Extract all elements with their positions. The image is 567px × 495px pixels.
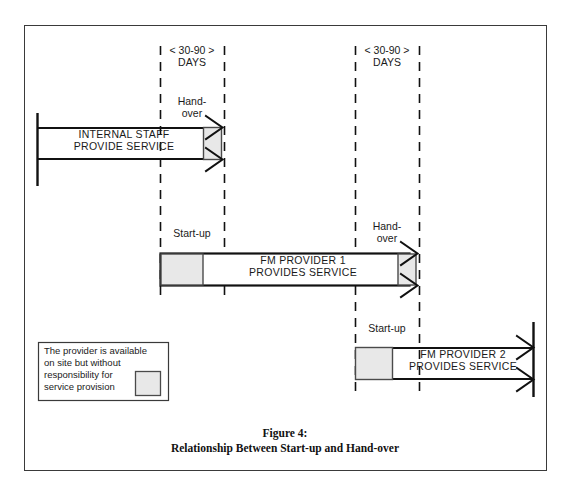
- legend-line-1: The provider is available: [44, 345, 147, 356]
- window1-range-label: < 30-90 >: [170, 44, 215, 56]
- bar2-label-line1: FM PROVIDER 1: [260, 254, 346, 266]
- bar1-label-line2: PROVIDE SERVICE: [74, 140, 175, 152]
- bar3-label-line1: FM PROVIDER 2: [420, 348, 506, 360]
- bar3-label-line2: PROVIDES SERVICE: [409, 360, 517, 372]
- window2-range-label: < 30-90 >: [365, 44, 410, 56]
- handover2-line1: Hand-: [373, 220, 402, 232]
- bar2-label-line2: PROVIDES SERVICE: [249, 266, 357, 278]
- start-up-handover-diagram: < 30-90 > DAYS < 30-90 > DAYS INTERNAL S…: [0, 0, 567, 495]
- bar1-handover-gray-block: [204, 128, 222, 160]
- startup2-label: Start-up: [368, 322, 406, 334]
- legend-gray-swatch: [136, 372, 161, 396]
- legend-line-4: service provision: [44, 381, 115, 392]
- caption-line-1: Figure 4:: [263, 427, 308, 440]
- window1-unit-label: DAYS: [178, 56, 206, 68]
- handover1-line1: Hand-: [178, 95, 207, 107]
- legend-line-2: on site but without: [44, 357, 121, 368]
- bar2-handover-gray-block: [398, 254, 416, 285]
- startup-annotation-1: Start-up: [173, 227, 211, 239]
- figure-frame: [25, 26, 547, 471]
- legend-box: The provider is available on site but wi…: [39, 343, 169, 401]
- startup-annotation-2: Start-up: [368, 322, 406, 334]
- caption-line-2: Relationship Between Start-up and Hand-o…: [171, 442, 399, 455]
- handover2-line2: over: [377, 232, 398, 244]
- bar3-startup-gray-block: [356, 348, 393, 380]
- handover1-line2: over: [182, 107, 203, 119]
- legend-line-3: responsibility for: [44, 369, 113, 380]
- bar2-startup-gray-block: [161, 254, 203, 285]
- bar1-label-line1: INTERNAL STAFF: [78, 128, 169, 140]
- figure-container: < 30-90 > DAYS < 30-90 > DAYS INTERNAL S…: [0, 0, 567, 495]
- startup1-label: Start-up: [173, 227, 211, 239]
- window2-unit-label: DAYS: [373, 56, 401, 68]
